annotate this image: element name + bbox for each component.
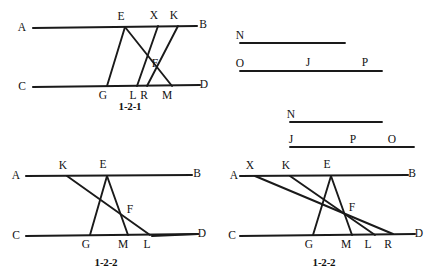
- label-X: X: [246, 159, 255, 171]
- label-M: M: [118, 238, 128, 250]
- label-X: X: [150, 9, 159, 21]
- figure-1-2-2-left-caption: 1-2-2: [95, 256, 119, 268]
- label-J: J: [306, 56, 311, 68]
- label-B: B: [408, 167, 416, 179]
- segment-XL: [137, 26, 158, 86]
- label-K: K: [282, 159, 291, 171]
- segment-EG: [107, 27, 125, 86]
- label-C: C: [12, 229, 20, 241]
- figure-1-2-2-right-caption: 1-2-2: [313, 256, 337, 268]
- label-F: F: [127, 203, 133, 215]
- figure-1-2-2-right: ABCDXKEFGMLR1-2-2: [228, 158, 423, 268]
- label-R: R: [384, 238, 392, 250]
- label-B: B: [193, 167, 201, 179]
- label-G: G: [82, 238, 90, 250]
- label-D: D: [200, 78, 208, 90]
- segment-EG: [313, 176, 331, 235]
- label-O: O: [388, 133, 396, 145]
- label-A: A: [12, 169, 21, 181]
- label-N: N: [236, 29, 245, 41]
- label-L: L: [143, 238, 150, 250]
- segment-EM: [107, 176, 128, 235]
- label-E: E: [323, 158, 330, 170]
- figure-1-2-2-left: ABCDKEFGML1-2-2: [12, 158, 206, 268]
- label-G: G: [99, 89, 107, 101]
- geometry-figure-sheet: ABCDEXKFGLRM1-2-1ABCDKEFGML1-2-2ABCDXKEF…: [0, 0, 445, 277]
- line-AB: [26, 175, 192, 176]
- label-A: A: [230, 169, 239, 181]
- segment-KL: [67, 176, 150, 235]
- label-O: O: [236, 57, 244, 69]
- label-L: L: [364, 238, 371, 250]
- label-M: M: [162, 89, 172, 101]
- line-CD: [240, 234, 415, 236]
- figure-ruler-bottom: NJPO: [287, 108, 414, 147]
- figure-1-2-1-caption: 1-2-1: [119, 100, 142, 112]
- label-P: P: [350, 133, 356, 145]
- label-E: E: [99, 158, 106, 170]
- segment-KR: [147, 26, 178, 86]
- line-AB: [33, 26, 197, 28]
- label-F: F: [152, 57, 158, 69]
- label-K: K: [170, 9, 179, 21]
- label-C: C: [18, 80, 26, 92]
- segment-EM: [125, 27, 172, 86]
- figure-1-2-1: ABCDEXKFGLRM1-2-1: [18, 9, 208, 112]
- label-J: J: [289, 133, 294, 145]
- label-M: M: [341, 238, 351, 250]
- label-F: F: [349, 201, 355, 213]
- label-D: D: [415, 227, 423, 239]
- label-D: D: [198, 227, 206, 239]
- label-N: N: [287, 108, 296, 120]
- label-P: P: [362, 56, 368, 68]
- segment-EG: [90, 176, 107, 235]
- label-G: G: [305, 238, 313, 250]
- figure-canvas: ABCDEXKFGLRM1-2-1ABCDKEFGML1-2-2ABCDXKEF…: [0, 0, 445, 277]
- label-K: K: [59, 159, 68, 171]
- label-C: C: [228, 229, 236, 241]
- label-E: E: [117, 10, 124, 22]
- label-A: A: [18, 21, 27, 33]
- line-AB: [240, 175, 408, 176]
- segment-XR: [255, 176, 393, 234]
- line-CD: [33, 85, 200, 87]
- figure-ruler-top: NOJP: [236, 29, 382, 71]
- segment-KL: [290, 176, 375, 235]
- label-B: B: [199, 18, 207, 30]
